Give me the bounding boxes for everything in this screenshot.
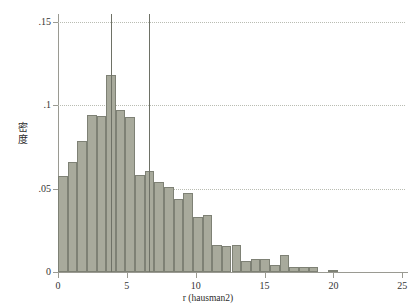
y-tick-mark: [53, 105, 58, 106]
x-tick-mark: [402, 273, 403, 278]
plot-area: [58, 22, 405, 272]
histogram-bar: [174, 199, 184, 272]
y-tick-label: .1: [24, 100, 51, 110]
histogram-bar: [135, 175, 145, 273]
upper-reference-line: [149, 14, 150, 272]
x-tick-label: 0: [43, 280, 73, 291]
histogram-bar: [97, 116, 107, 272]
histogram-bar: [251, 259, 261, 272]
histogram-bar: [68, 162, 78, 272]
y-axis-title: 密度: [16, 122, 30, 146]
x-tick-mark: [127, 273, 128, 278]
histogram-bar: [77, 141, 87, 272]
x-tick-label: 20: [318, 280, 348, 291]
x-tick-mark: [265, 273, 266, 278]
x-tick-mark: [196, 273, 197, 278]
x-axis-line: [58, 272, 408, 273]
histogram-bar: [222, 246, 232, 272]
histogram-bar: [87, 115, 97, 273]
histogram-bar: [299, 267, 309, 272]
x-tick-label: 25: [387, 280, 416, 291]
y-tick-label: .05: [24, 184, 51, 194]
y-tick-mark: [53, 189, 58, 190]
histogram-figure: 密度 0.05.1.150510152025 r (hausman2): [0, 0, 416, 308]
y-tick-label: 0: [24, 267, 51, 277]
histogram-bar: [328, 270, 338, 273]
y-tick-label: .15: [24, 17, 51, 27]
x-tick-label: 10: [181, 280, 211, 291]
x-tick-mark: [58, 273, 59, 278]
x-tick-mark: [333, 273, 334, 278]
x-tick-label: 5: [112, 280, 142, 291]
histogram-bar: [241, 261, 251, 272]
histogram-bar: [212, 245, 222, 273]
x-axis-title-text: r (hausman2): [183, 293, 233, 303]
histogram-bar: [183, 193, 193, 272]
y-axis-title-text: 密度: [16, 122, 30, 146]
histogram-bar: [280, 255, 290, 273]
histogram-bar: [154, 182, 164, 272]
histogram-bar: [164, 187, 174, 272]
lower-reference-line: [111, 14, 112, 272]
histogram-bar: [270, 265, 280, 272]
histogram-bar: [58, 176, 68, 272]
histogram-bar: [260, 259, 270, 272]
histogram-bar: [125, 117, 135, 272]
histogram-bar: [116, 110, 126, 273]
histogram-bar: [232, 245, 242, 273]
histogram-bar: [193, 217, 203, 272]
histogram-bar: [309, 267, 319, 272]
x-tick-label: 15: [250, 280, 280, 291]
y-tick-mark: [53, 22, 58, 23]
histogram-bar: [289, 267, 299, 272]
x-axis-title: r (hausman2): [0, 293, 416, 304]
histogram-bar: [203, 215, 213, 273]
